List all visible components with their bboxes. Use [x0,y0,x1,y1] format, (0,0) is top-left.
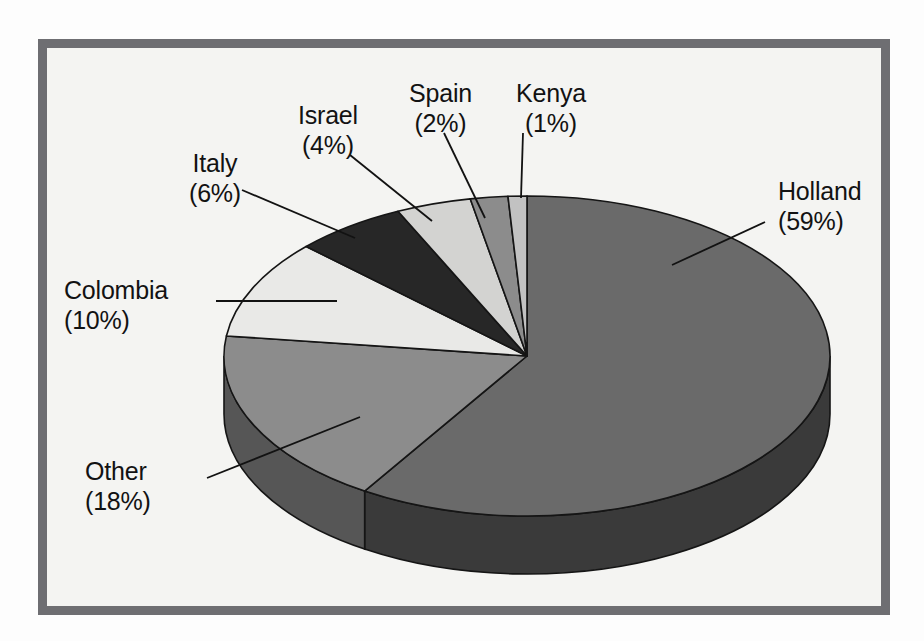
leader-line-italy [242,190,355,238]
pie-label-italy-percent: (6%) [189,178,241,208]
pie-label-other-name: Other [85,456,151,486]
pie-label-kenya-name: Kenya [516,78,586,108]
pie-chart-plot-area: Holland (59%) Other (18%) Colombia (10%)… [0,0,924,641]
pie-label-kenya-percent: (1%) [516,108,586,138]
pie-label-spain-name: Spain [409,78,472,108]
pie-label-israel-name: Israel [298,100,358,130]
pie-label-kenya: Kenya (1%) [516,78,586,138]
pie-label-holland-percent: (59%) [778,206,861,236]
pie-label-colombia: Colombia (10%) [64,275,168,335]
pie-label-other-percent: (18%) [85,486,151,516]
pie-top-slices-group [224,196,830,516]
leader-line-israel [350,155,432,221]
pie-label-israel-percent: (4%) [298,130,358,160]
pie-label-holland-name: Holland [778,176,861,206]
figure-container: Holland (59%) Other (18%) Colombia (10%)… [0,0,924,641]
pie-label-israel: Israel (4%) [298,100,358,160]
pie-label-italy: Italy (6%) [189,148,241,208]
pie-label-other: Other (18%) [85,456,151,516]
pie-label-italy-name: Italy [189,148,241,178]
leader-line-kenya [521,133,523,198]
pie-label-spain-percent: (2%) [409,108,472,138]
pie-label-colombia-name: Colombia [64,275,168,305]
pie-label-colombia-percent: (10%) [64,305,168,335]
pie-label-holland: Holland (59%) [778,176,861,236]
pie-label-spain: Spain (2%) [409,78,472,138]
